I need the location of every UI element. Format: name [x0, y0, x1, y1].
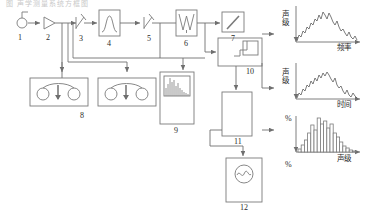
- component-number-12: 12: [240, 204, 248, 212]
- component-number-4: 4: [107, 40, 111, 48]
- diagram-canvas: [0, 0, 367, 220]
- microphone-symbol: [17, 12, 28, 28]
- component-number-7: 7: [231, 35, 235, 43]
- oscilloscope-box: [226, 158, 262, 202]
- component-number-3: 3: [79, 35, 83, 43]
- level-meter-box: [222, 12, 244, 32]
- histogram-xlabel: 声级: [337, 155, 351, 163]
- component-number-11: 11: [234, 138, 242, 146]
- spectrum-analyzer-box: [160, 72, 194, 124]
- tape-recorder-left: [30, 78, 88, 106]
- spectrum-plot-ylabel: 声级: [281, 10, 289, 26]
- histogram-ylabel: %: [285, 114, 292, 123]
- percent-label-lower: %: [285, 160, 292, 169]
- bandpass-filter-box: [99, 10, 120, 36]
- time-history-plot-ylabel: 声级: [281, 68, 289, 84]
- preamplifier-symbol: [44, 17, 55, 29]
- frequency-analyzer-box: [218, 38, 262, 66]
- statistical-analyzer-box: [222, 92, 252, 136]
- component-number-5: 5: [147, 35, 151, 43]
- component-number-2: 2: [46, 34, 50, 42]
- component-number-9: 9: [174, 127, 178, 135]
- time-history-plot: [262, 63, 360, 99]
- acoustic-measurement-block-diagram: 图 声学测量系统方框图: [0, 0, 367, 220]
- notch-filter-box: [176, 10, 197, 36]
- component-number-6: 6: [184, 40, 188, 48]
- distribution-histogram: [262, 116, 360, 152]
- tape-recorder-right: [98, 78, 156, 106]
- component-number-8: 8: [80, 112, 84, 120]
- time-history-plot-xlabel: 时间: [337, 101, 351, 109]
- component-number-1: 1: [18, 34, 22, 42]
- component-number-10: 10: [246, 68, 254, 76]
- attenuator-switch-1-symbol: [76, 14, 86, 29]
- attenuator-switch-2-symbol: [144, 14, 154, 29]
- spectrum-plot-xlabel: 频率: [337, 44, 351, 52]
- spectrum-plot: [262, 6, 360, 42]
